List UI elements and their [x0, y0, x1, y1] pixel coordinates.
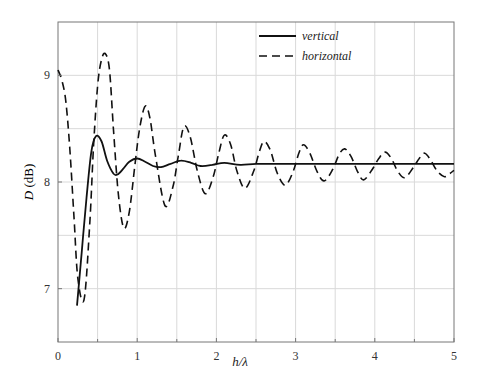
series-line-vertical [77, 136, 454, 306]
x-tick-label: 1 [134, 349, 140, 363]
y-axis-label-unit: (dB) [21, 164, 36, 191]
x-tick-label: 0 [55, 349, 61, 363]
legend-label-vertical: vertical [302, 29, 339, 43]
y-axis-label-symbol: D [21, 190, 36, 201]
y-tick-label: 8 [44, 175, 50, 189]
x-axis-label: h/λ [232, 354, 248, 369]
x-tick-label: 2 [213, 349, 219, 363]
legend: vertical horizontal [259, 29, 352, 63]
y-tick-label: 7 [44, 282, 50, 296]
axis-ticks: 012345789 [44, 68, 457, 363]
y-tick-label: 9 [44, 68, 50, 82]
chart: 012345789 vertical horizontal h/λ D (dB) [0, 0, 481, 386]
y-axis-label: D (dB) [21, 164, 36, 201]
legend-label-horizontal: horizontal [302, 49, 352, 63]
x-tick-label: 3 [293, 349, 299, 363]
x-tick-label: 5 [451, 349, 457, 363]
x-tick-label: 4 [372, 349, 378, 363]
